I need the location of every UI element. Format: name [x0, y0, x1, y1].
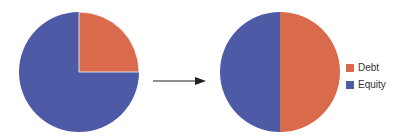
debt-swatch: [346, 64, 354, 72]
equity-swatch: [346, 81, 354, 89]
equity-slice: [220, 12, 280, 132]
pie-chart-after: [200, 0, 360, 137]
legend-item-equity: Equity: [346, 76, 386, 93]
debt-slice: [280, 12, 340, 132]
legend-label: Debt: [358, 62, 379, 73]
debt-slice: [79, 12, 139, 72]
legend-item-debt: Debt: [346, 59, 386, 76]
pie-chart-before: [0, 0, 160, 137]
legend: Debt Equity: [346, 59, 386, 93]
legend-label: Equity: [358, 79, 386, 90]
